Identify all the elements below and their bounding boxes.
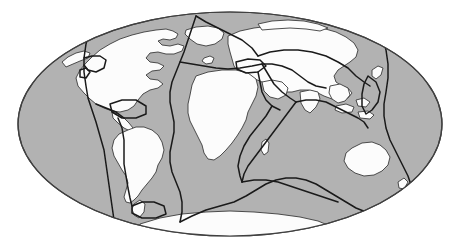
world-tectonic-map-figure: World map of tectonic plates Mollweide (… [0,0,461,250]
world-map-svg [0,0,461,250]
